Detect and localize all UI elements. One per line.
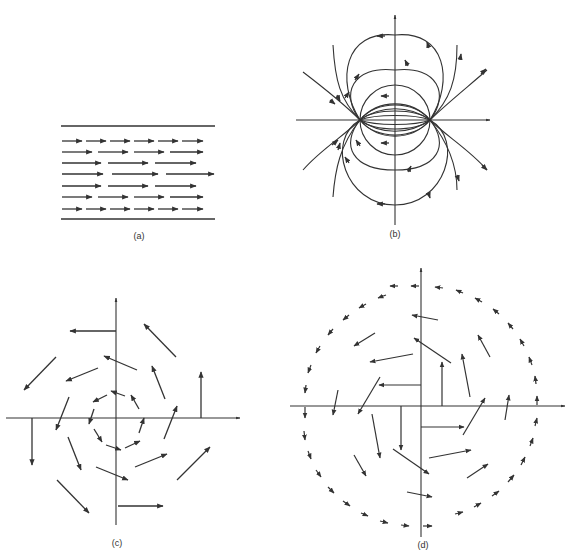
figure-canvas: [0, 0, 578, 557]
panel-a-label: (a): [134, 231, 145, 241]
panel-a-uniform-flow: [61, 126, 215, 219]
panel-c-label: (c): [112, 538, 123, 548]
panel-b-label: (b): [390, 229, 401, 239]
panel-c-vortex-field: [6, 298, 240, 525]
panel-b-dipole-field: [296, 15, 490, 225]
panel-d-label: (d): [418, 540, 429, 550]
panel-d-rotational-field: [290, 268, 565, 537]
